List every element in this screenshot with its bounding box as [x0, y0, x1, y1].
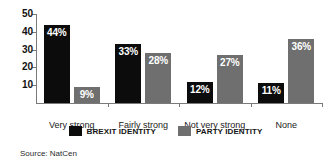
x-axis-tick [108, 103, 109, 107]
bar-value-label: 28% [145, 55, 171, 66]
bar-brexit-identity: 33% [115, 44, 141, 103]
bar-value-label: 27% [217, 57, 243, 68]
bar-party-identity: 28% [145, 53, 171, 103]
x-axis-tick [322, 103, 323, 107]
bar-value-label: 36% [288, 41, 314, 52]
y-axis-tick-label: 20 [22, 62, 33, 72]
bar-party-identity: 36% [288, 39, 314, 103]
bar-chart: 1020304050 44%9%33%28%12%27%11%36% Very … [0, 0, 331, 165]
bar-party-identity: 9% [74, 87, 100, 103]
bar-value-label: 33% [115, 46, 141, 57]
x-axis-tick [179, 103, 180, 107]
y-axis-line [36, 14, 37, 103]
plot-area: 1020304050 44%9%33%28%12%27%11%36% Very … [36, 14, 322, 103]
bar-value-label: 44% [44, 27, 70, 38]
legend-label-party: PARTY IDENTITY [196, 127, 262, 136]
legend-item-party-identity: PARTY IDENTITY [178, 126, 262, 136]
bar-value-label: 12% [187, 84, 213, 95]
legend-label-brexit: BREXIT IDENTITY [87, 127, 157, 136]
bar-value-label: 11% [258, 85, 284, 96]
chart-legend: BREXIT IDENTITY PARTY IDENTITY [0, 126, 331, 136]
y-axis-tick-label: 30 [22, 45, 33, 55]
legend-swatch-icon-party [178, 126, 191, 136]
bar-party-identity: 27% [217, 55, 243, 103]
legend-item-brexit-identity: BREXIT IDENTITY [69, 126, 157, 136]
y-axis-tick-label: 10 [22, 80, 33, 90]
bar-brexit-identity: 44% [44, 25, 70, 103]
legend-swatch-icon-brexit [69, 126, 82, 136]
bar-brexit-identity: 11% [258, 83, 284, 103]
source-note: Source: NatCen [20, 149, 77, 158]
y-axis-tick-label: 40 [22, 27, 33, 37]
bar-brexit-identity: 12% [187, 82, 213, 103]
bar-value-label: 9% [74, 89, 100, 100]
x-axis-tick [251, 103, 252, 107]
y-axis-tick-label: 50 [22, 9, 33, 19]
